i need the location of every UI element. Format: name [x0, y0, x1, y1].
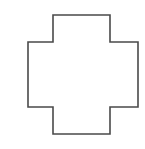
cross-shape-svg [0, 0, 145, 149]
drawing-canvas [0, 0, 145, 149]
